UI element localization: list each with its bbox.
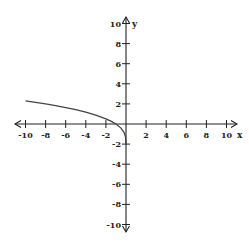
- x-tick-label: -10: [18, 130, 33, 140]
- y-tick-label: 2: [115, 99, 121, 109]
- function-graph: -10-8-6-4-2246810108642-2-4-6-8-10 x y: [0, 0, 249, 250]
- x-tick-label: 6: [184, 130, 190, 140]
- y-tick-label: -6: [112, 179, 121, 189]
- x-axis-label: x: [237, 130, 243, 140]
- axes: [15, 17, 237, 232]
- x-tick-label: 2: [143, 130, 149, 140]
- y-tick-label: 6: [115, 59, 121, 69]
- x-tick-label: -6: [61, 130, 70, 140]
- y-tick-label: -10: [107, 220, 122, 230]
- y-axis-label: y: [131, 19, 138, 29]
- x-tick-label: -8: [41, 130, 50, 140]
- x-tick-label: -4: [81, 130, 90, 140]
- x-tick-label: -2: [101, 130, 110, 140]
- y-tick-label: 4: [115, 79, 121, 89]
- x-tick-label: 8: [204, 130, 210, 140]
- y-tick-label: 10: [110, 19, 122, 29]
- x-tick-label: 10: [221, 130, 233, 140]
- x-tick-label: 4: [163, 130, 169, 140]
- y-tick-label: -8: [112, 199, 121, 209]
- y-tick-label: -4: [112, 159, 121, 169]
- y-tick-label: 8: [115, 39, 121, 49]
- y-tick-label: -2: [112, 139, 121, 149]
